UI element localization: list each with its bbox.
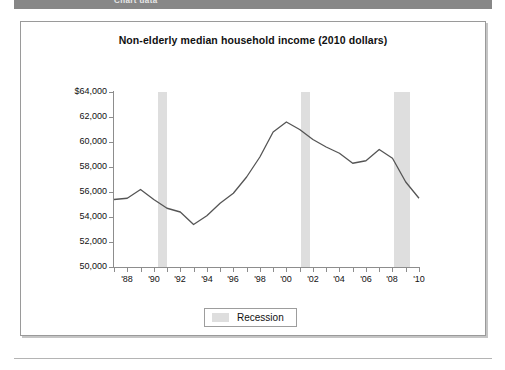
y-axis-tick (109, 142, 113, 143)
x-axis-tick (366, 268, 367, 272)
y-axis-tick-label: 60,000 (45, 136, 107, 146)
y-axis-tick-label: $64,000 (45, 86, 107, 96)
y-axis-tick-label: 52,000 (45, 236, 107, 246)
x-axis-tick-label: '08 (379, 274, 405, 284)
x-axis-tick (260, 268, 261, 272)
x-axis-tick (180, 268, 181, 272)
top-banner-label: Chart data (114, 0, 158, 5)
y-axis-tick (109, 192, 113, 193)
x-axis-tick (220, 268, 221, 272)
x-axis-tick-label: '06 (353, 274, 379, 284)
x-axis-tick (326, 268, 327, 272)
x-axis-tick-label: '96 (220, 274, 246, 284)
x-axis-tick-label: '00 (273, 274, 299, 284)
x-axis-tick (141, 268, 142, 272)
recession-swatch-icon (212, 313, 229, 322)
x-axis (113, 267, 420, 268)
y-axis-tick (109, 117, 113, 118)
x-axis-tick (419, 268, 420, 272)
y-axis-tick (109, 92, 113, 93)
income-line-series (114, 92, 419, 267)
y-axis (113, 91, 114, 268)
x-axis-tick (207, 268, 208, 272)
footer-divider (14, 358, 492, 359)
x-axis-tick-label: '90 (141, 274, 167, 284)
y-axis-tick-label: 58,000 (45, 161, 107, 171)
x-axis-tick-label: '94 (194, 274, 220, 284)
chart-legend: Recession (204, 308, 297, 327)
x-axis-tick (300, 268, 301, 272)
x-axis-tick (286, 268, 287, 272)
y-axis-tick-label: 56,000 (45, 186, 107, 196)
x-axis-tick-label: '98 (247, 274, 273, 284)
x-axis-tick-label: '92 (167, 274, 193, 284)
y-axis-tick (109, 167, 113, 168)
y-axis-tick-label: 50,000 (45, 261, 107, 271)
legend-item-label: Recession (237, 312, 284, 323)
page-title: Non-elderly median household income (201… (21, 34, 485, 46)
y-axis-tick (109, 217, 113, 218)
x-axis-tick (392, 268, 393, 272)
chart-figure: Non-elderly median household income (201… (20, 21, 486, 336)
y-axis-tick-label: 54,000 (45, 211, 107, 221)
x-axis-tick (379, 268, 380, 272)
x-axis-tick (127, 268, 128, 272)
x-axis-tick (313, 268, 314, 272)
y-axis-tick-label: 62,000 (45, 111, 107, 121)
x-axis-tick (167, 268, 168, 272)
y-axis-tick (109, 242, 113, 243)
x-axis-tick (273, 268, 274, 272)
x-axis-tick (353, 268, 354, 272)
x-axis-tick (114, 268, 115, 272)
x-axis-tick-label: '88 (114, 274, 140, 284)
x-axis-tick (194, 268, 195, 272)
x-axis-tick-label: '02 (300, 274, 326, 284)
y-axis-tick (109, 267, 113, 268)
x-axis-tick (339, 268, 340, 272)
income-line (114, 122, 419, 225)
x-axis-tick (247, 268, 248, 272)
top-banner: Chart data (14, 0, 492, 9)
x-axis-tick (233, 268, 234, 272)
plot-area (114, 92, 419, 267)
x-axis-tick (406, 268, 407, 272)
x-axis-tick-label: '10 (406, 274, 432, 284)
x-axis-tick-label: '04 (326, 274, 352, 284)
x-axis-tick (154, 268, 155, 272)
